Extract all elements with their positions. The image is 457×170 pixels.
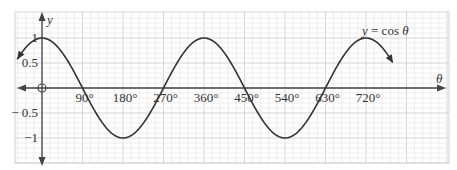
y-tick-label: − 0.5 [11, 105, 38, 120]
cosine-graph: 90°180°270°360°450°540°630°720°10.5− 0.5… [0, 0, 457, 170]
x-tick-label: 720° [356, 90, 381, 105]
x-axis-arrow-left-icon [17, 85, 26, 92]
function-label: y = cos θ [360, 23, 409, 38]
x-tick-label: 180° [113, 90, 138, 105]
y-tick-label: −1 [24, 130, 38, 145]
y-axis-arrow-up-icon [39, 12, 46, 21]
y-axis-label: y [45, 12, 53, 27]
x-tick-label: 540° [275, 90, 300, 105]
y-tick-label: 0.5 [22, 55, 38, 70]
x-axis-label: θ [436, 71, 443, 86]
x-tick-label: 360° [194, 90, 219, 105]
curve-arrow-right-icon [386, 54, 393, 63]
y-tick-label: 1 [32, 30, 39, 45]
x-tick-label: 90° [75, 90, 93, 105]
x-tick-label: 450° [234, 90, 259, 105]
x-tick-label: 630° [315, 90, 340, 105]
y-axis-arrow-down-icon [39, 157, 46, 166]
x-tick-label: 270° [153, 90, 178, 105]
